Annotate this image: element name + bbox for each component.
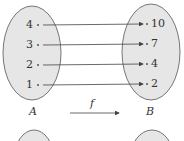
codomain-element: 2 [151, 78, 158, 89]
partial-ellipse-right [130, 130, 174, 141]
set-b-label: B [146, 106, 154, 117]
domain-element: 2 [26, 59, 33, 70]
codomain-element: 4 [151, 58, 158, 69]
domain-element: 1 [26, 79, 33, 90]
codomain-element: 10 [151, 18, 165, 29]
domain-element: 3 [26, 39, 33, 50]
domain-element: 4 [26, 19, 33, 30]
set-a-label: A [29, 106, 37, 117]
arrow-1-to-2 [43, 84, 143, 85]
codomain-element: 7 [151, 38, 158, 49]
partial-ellipse-left [14, 130, 54, 141]
function-label: f [90, 98, 94, 109]
